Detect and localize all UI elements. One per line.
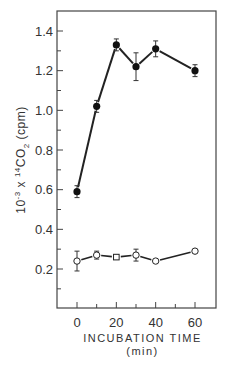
x-axis-unit: (min): [126, 345, 159, 357]
data-point-filled: [113, 41, 120, 48]
data-point-filled: [93, 103, 100, 110]
x-tick-label: 60: [188, 315, 202, 330]
data-point-filled: [191, 67, 198, 74]
x-tick-label: 0: [73, 315, 80, 330]
y-tick-label: 1.0: [35, 103, 53, 118]
series-line: [160, 252, 191, 260]
x-axis-title: INCUBATION TIME: [83, 332, 202, 344]
y-tick-label: 0.2: [35, 262, 53, 277]
y-tick-label: 1.4: [35, 24, 53, 39]
series-line: [121, 256, 132, 257]
x-tick-label: 20: [109, 315, 123, 330]
series-line: [81, 256, 92, 259]
data-point-open: [192, 248, 198, 254]
data-point-open-square: [114, 254, 120, 260]
y-tick-label: 0.4: [35, 222, 53, 237]
series-line: [78, 111, 96, 188]
series-line: [139, 52, 152, 64]
y-tick-label: 0.6: [35, 182, 53, 197]
series-line: [101, 256, 112, 257]
data-point-open: [74, 258, 80, 264]
data-point-filled: [132, 63, 139, 70]
series-line: [98, 49, 115, 102]
series-line: [160, 51, 191, 68]
x-tick-label: 40: [148, 315, 162, 330]
line-chart: 0.20.40.60.81.01.21.40204060INCUBATION T…: [0, 0, 225, 371]
y-tick-label: 1.2: [35, 63, 53, 78]
y-axis-title: 10-3 x 14CO2 (cpm): [13, 106, 31, 214]
data-point-open: [152, 258, 158, 264]
y-tick-label: 0.8: [35, 143, 53, 158]
series-line: [140, 256, 151, 259]
series-line: [119, 48, 133, 63]
data-point-open: [93, 252, 99, 258]
data-point-open: [133, 252, 139, 258]
data-point-filled: [152, 45, 159, 52]
data-point-filled: [73, 188, 80, 195]
